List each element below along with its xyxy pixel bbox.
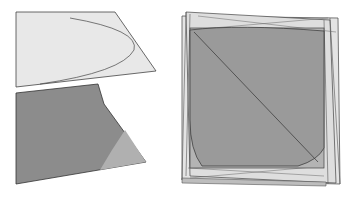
mesh-render-a xyxy=(0,0,178,190)
mesh-render-b xyxy=(178,0,356,190)
figure-panel-a xyxy=(0,0,178,190)
figure-panel-b xyxy=(178,0,356,190)
